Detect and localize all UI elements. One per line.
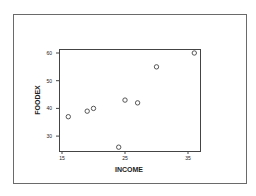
y-axis-label: FOODEX xyxy=(34,85,41,115)
data-point-marker xyxy=(192,51,196,55)
data-point-marker xyxy=(117,145,121,149)
x-axis-ticks: 152535 xyxy=(59,151,191,161)
data-point-marker xyxy=(66,115,70,119)
x-tick-label: 15 xyxy=(59,155,65,161)
y-tick-label: 40 xyxy=(46,105,52,111)
data-points xyxy=(66,51,196,150)
y-tick-label: 60 xyxy=(46,50,52,56)
x-tick-label: 25 xyxy=(122,155,128,161)
plot-area-frame xyxy=(60,50,201,152)
scatter-plot: 152535 30405060 INCOME FOODEX xyxy=(0,0,256,196)
data-point-marker xyxy=(85,109,89,113)
data-point-marker xyxy=(135,101,139,105)
y-tick-label: 50 xyxy=(46,78,52,84)
x-axis-label: INCOME xyxy=(115,166,143,173)
data-point-marker xyxy=(123,98,127,102)
data-point-marker xyxy=(154,65,158,69)
data-point-marker xyxy=(91,106,95,110)
x-tick-label: 35 xyxy=(185,155,191,161)
y-axis-ticks: 30405060 xyxy=(46,50,59,139)
y-tick-label: 30 xyxy=(46,133,52,139)
